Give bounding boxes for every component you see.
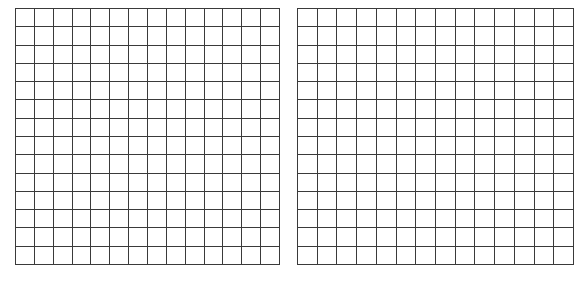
grid-cell [261,82,280,100]
grid-cell [205,46,224,64]
grid-cell [397,46,417,64]
grid-cell [186,82,205,100]
grid-cell [129,119,148,137]
grid-cell [242,9,261,27]
grid-cell [475,100,495,118]
grid-cell [148,27,167,45]
grid-cell [35,9,54,27]
grid-cell [554,155,574,173]
grid-cell [298,210,318,228]
grid-cell [318,155,338,173]
grid-cell [495,192,515,210]
grid-cell [456,192,476,210]
grid-cell [456,64,476,82]
grid-cell [35,155,54,173]
grid-cell [495,228,515,246]
grid-cell [261,192,280,210]
grid-cell [129,100,148,118]
grid-cell [54,119,73,137]
grid-cell [377,46,397,64]
grid-cell [397,9,417,27]
grid-cell [54,82,73,100]
grid-cell [495,137,515,155]
grid-cell [397,192,417,210]
grid-cell [515,174,535,192]
grid-cell [186,46,205,64]
grid-cell [35,27,54,45]
grid-cell [91,46,110,64]
grid-cell [16,100,35,118]
grid-cell [475,247,495,265]
grid-cell [129,210,148,228]
grid-cell [357,155,377,173]
grid-cell [129,9,148,27]
grid-cell [495,247,515,265]
grid-cell [73,9,92,27]
grid-cell [436,100,456,118]
grid-cell [515,137,535,155]
grid-cell [148,210,167,228]
grid-cell [397,27,417,45]
grid-cell [73,119,92,137]
grid-cell [54,46,73,64]
grid-cell [357,27,377,45]
grid-cell [186,192,205,210]
grid-cell [515,155,535,173]
grid-cell [337,9,357,27]
grid-cell [167,100,186,118]
grid-cell [535,247,555,265]
grid-cell [205,247,224,265]
grid-cell [73,174,92,192]
grid-cell [73,100,92,118]
grid-cell [16,82,35,100]
grid-cell [91,210,110,228]
grid-cell [397,228,417,246]
grid-cell [535,100,555,118]
grid-cell [495,155,515,173]
grid-cell [261,27,280,45]
grid-cell [298,174,318,192]
grid-cell [357,228,377,246]
grid-cell [129,27,148,45]
grid-cell [397,174,417,192]
grid-cell [205,82,224,100]
grid-cell [167,174,186,192]
grid-cell [261,46,280,64]
grid-cell [73,27,92,45]
grid-cell [91,192,110,210]
grid-cell [357,119,377,137]
grid-cell [357,82,377,100]
grid-cell [242,155,261,173]
grid-cell [475,155,495,173]
grid-cell [16,64,35,82]
grid-cell [205,64,224,82]
grid-cell [110,228,129,246]
grid-cell [337,228,357,246]
grid-cell [16,155,35,173]
grid-cell [416,174,436,192]
grid-cell [298,247,318,265]
grid-cell [357,100,377,118]
grid-cell [73,46,92,64]
grid-cell [456,137,476,155]
grid-cell [397,119,417,137]
grid-cell [54,9,73,27]
grid-cell [91,174,110,192]
grid-cell [54,247,73,265]
grid-cell [456,155,476,173]
grid-cell [242,100,261,118]
grid-cell [91,64,110,82]
grid-cell [242,247,261,265]
grid-cell [416,210,436,228]
grid-cell [318,247,338,265]
grid-cell [242,210,261,228]
grid-cell [261,174,280,192]
grid-cell [298,9,318,27]
grid-cell [16,9,35,27]
grid-cell [205,155,224,173]
grid-cell [475,174,495,192]
grid-cell [337,247,357,265]
grid-cell [242,192,261,210]
grid-cell [16,228,35,246]
grid-cell [456,119,476,137]
